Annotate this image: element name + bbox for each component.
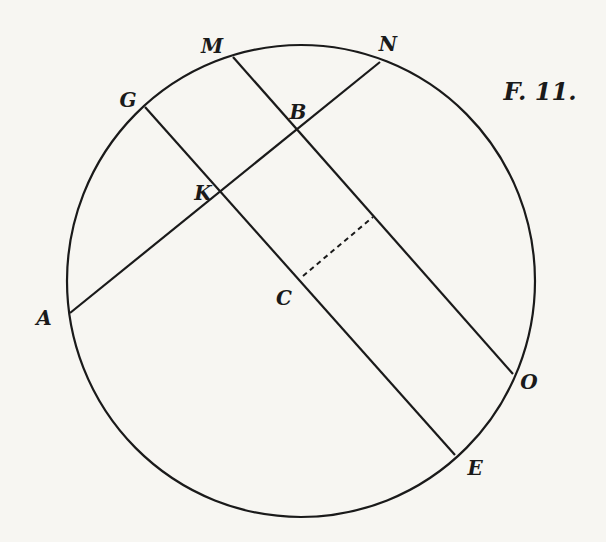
label-M: M bbox=[201, 36, 223, 56]
label-G: G bbox=[119, 90, 136, 110]
label-B: B bbox=[290, 102, 307, 122]
label-O: O bbox=[520, 372, 537, 392]
label-E: E bbox=[467, 458, 482, 478]
chord-GE bbox=[145, 107, 455, 455]
label-A: A bbox=[36, 308, 52, 328]
label-C: C bbox=[276, 288, 292, 308]
label-K: K bbox=[194, 183, 211, 203]
chord-AN bbox=[70, 62, 380, 313]
label-N: N bbox=[379, 34, 397, 54]
figure-title: F. 11. bbox=[503, 80, 576, 104]
chord-MO bbox=[233, 57, 513, 374]
dashed-perpendicular bbox=[303, 217, 373, 276]
